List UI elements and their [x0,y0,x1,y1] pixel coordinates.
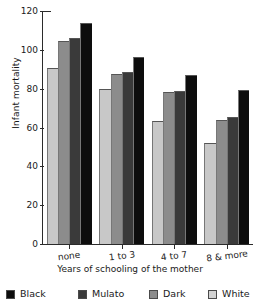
bar [99,89,110,244]
bar [58,41,69,244]
x-tick-mark [69,245,70,249]
y-tick: 80 [12,89,38,90]
legend-swatch [6,290,15,299]
x-tick-label: 4 to 7 [148,248,201,264]
bar [47,68,58,244]
x-axis-line [42,244,253,245]
y-tick-label: 100 [14,46,38,55]
legend-swatch [78,290,87,299]
legend-item[interactable]: Dark [149,287,186,301]
y-tick: 60 [12,128,38,129]
legend-item[interactable]: White [208,287,250,301]
y-tick-label: 40 [14,162,38,171]
legend-swatch [208,290,217,299]
legend-label: Mulato [92,289,124,299]
y-tick-label: 120 [14,7,38,16]
bar [185,75,196,244]
legend-item[interactable]: Mulato [78,287,124,301]
y-tick: 0 [12,244,38,245]
x-tick-label: 8 & more [200,248,253,264]
x-tick-mark [174,245,175,249]
bar [227,117,238,244]
legend-label: Black [20,289,46,299]
plot-area [43,11,253,244]
y-tick: 40 [12,166,38,167]
y-tick-label: 60 [14,124,38,133]
bar [122,72,133,244]
y-tick-label: 0 [14,240,38,249]
x-tick-mark [227,245,228,249]
bar [204,143,215,244]
y-tick-label: 80 [14,85,38,94]
bar [133,57,144,244]
y-tick: 20 [12,205,38,206]
x-tick-label: 1 to 3 [95,248,148,264]
legend-label: Dark [163,289,186,299]
bar-chart: Infant mortality 120100806040200 none1 t… [0,0,260,308]
bar [163,92,174,244]
y-tick-label: 20 [14,201,38,210]
x-tick-label: none [43,248,96,264]
legend-item[interactable]: Black [6,287,46,301]
chart-legend: BlackMulatoDarkWhite [6,287,256,303]
legend-label: White [222,289,250,299]
y-tick: 100 [12,50,38,51]
bar [80,23,91,244]
y-tick: 120 [12,11,38,12]
x-axis-title: Years of schooling of the mother [0,264,260,274]
bar [111,74,122,244]
legend-swatch [149,290,158,299]
bar [238,90,249,244]
bar [216,120,227,244]
bar [152,121,163,244]
x-tick-mark [122,245,123,249]
bar [69,38,80,244]
bar [174,91,185,244]
